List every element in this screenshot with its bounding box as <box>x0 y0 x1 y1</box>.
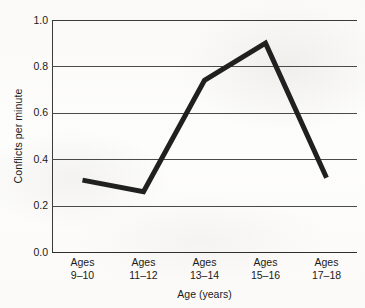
x-tick-label-line1: Ages <box>52 256 114 269</box>
plot-area <box>52 20 357 252</box>
x-tick-label-line2: 11–12 <box>113 269 175 282</box>
y-tick-label: 0.8 <box>22 61 48 72</box>
data-series-line <box>52 20 357 253</box>
x-tick-label-line1: Ages <box>113 256 175 269</box>
x-tick-label-line1: Ages <box>296 256 358 269</box>
y-axis-tick-labels: 1.00.80.60.40.20.0 <box>22 0 48 308</box>
x-tick-label: Ages17–18 <box>296 256 358 282</box>
y-tick-label: 1.0 <box>22 15 48 26</box>
y-tick-label: 0.0 <box>22 247 48 258</box>
x-tick-label: Ages9–10 <box>52 256 114 282</box>
x-tick-label-line2: 17–18 <box>296 269 358 282</box>
x-tick-label: Ages15–16 <box>235 256 297 282</box>
x-tick-label: Ages11–12 <box>113 256 175 282</box>
x-axis-title: Age (years) <box>52 288 357 301</box>
x-axis-tick-labels: Ages9–10Ages11–12Ages13–14Ages15–16Ages1… <box>52 256 357 286</box>
y-tick-label: 0.2 <box>22 200 48 211</box>
x-tick-label-line2: 15–16 <box>235 269 297 282</box>
x-tick-label: Ages13–14 <box>174 256 236 282</box>
x-tick-label-line1: Ages <box>174 256 236 269</box>
x-tick-label-line2: 9–10 <box>52 269 114 282</box>
x-tick-label-line1: Ages <box>235 256 297 269</box>
x-tick-label-line2: 13–14 <box>174 269 236 282</box>
y-tick-label: 0.4 <box>22 154 48 165</box>
y-tick-label: 0.6 <box>22 107 48 118</box>
chart-figure: Conflicts per minute 1.00.80.60.40.20.0 … <box>0 0 365 308</box>
